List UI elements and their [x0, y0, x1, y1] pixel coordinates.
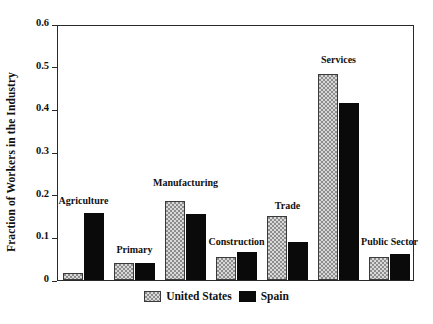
bar-spain-primary: [135, 263, 155, 280]
legend-label: United States: [166, 290, 232, 302]
bar-spain-manufacturing: [186, 214, 206, 280]
bar-united-states-services: [318, 74, 338, 280]
bar-spain-services: [339, 103, 359, 280]
bar-chart-figure: Fraction of Workers in the Industry 00.1…: [0, 0, 433, 324]
y-axis-tick-label: 0.4: [36, 102, 49, 113]
bar-spain-construction: [237, 252, 257, 280]
y-axis-tick-label: 0.6: [36, 17, 49, 28]
legend-entry-spain: Spain: [239, 290, 289, 302]
category-label-primary: Primary: [116, 244, 152, 255]
category-label-agriculture: Agriculture: [59, 195, 109, 206]
bar-united-states-primary: [114, 263, 134, 280]
legend-label: Spain: [261, 290, 289, 302]
checkered-gray-swatch: [144, 291, 161, 302]
bar-spain-trade: [288, 242, 308, 280]
bar-united-states-trade: [267, 216, 287, 280]
category-label-public-sector: Public Sector: [361, 236, 418, 247]
bar-spain-public-sector: [390, 254, 410, 280]
y-axis-tick-label: 0.2: [36, 188, 49, 199]
y-axis-title: Fraction of Workers in the Industry: [0, 0, 22, 324]
bar-united-states-agriculture: [63, 273, 83, 280]
bar-united-states-public-sector: [369, 257, 389, 280]
bar-spain-agriculture: [84, 213, 104, 280]
legend-entry-united-states: United States: [144, 290, 232, 302]
chart-legend: United StatesSpain: [0, 290, 433, 302]
bar-united-states-construction: [216, 257, 236, 280]
y-axis-tick-label: 0: [44, 273, 49, 284]
plot-area: AgriculturePrimaryManufacturingConstruct…: [57, 25, 414, 281]
category-label-trade: Trade: [275, 200, 300, 211]
category-label-construction: Construction: [208, 236, 264, 247]
category-label-manufacturing: Manufacturing: [153, 177, 218, 188]
category-label-services: Services: [321, 54, 356, 65]
solid-black-swatch: [239, 291, 256, 302]
bar-united-states-manufacturing: [165, 201, 185, 280]
y-axis-tick-label: 0.3: [36, 145, 49, 156]
y-axis-tick-label: 0.5: [36, 60, 49, 71]
y-axis-tick-label: 0.1: [36, 230, 49, 241]
